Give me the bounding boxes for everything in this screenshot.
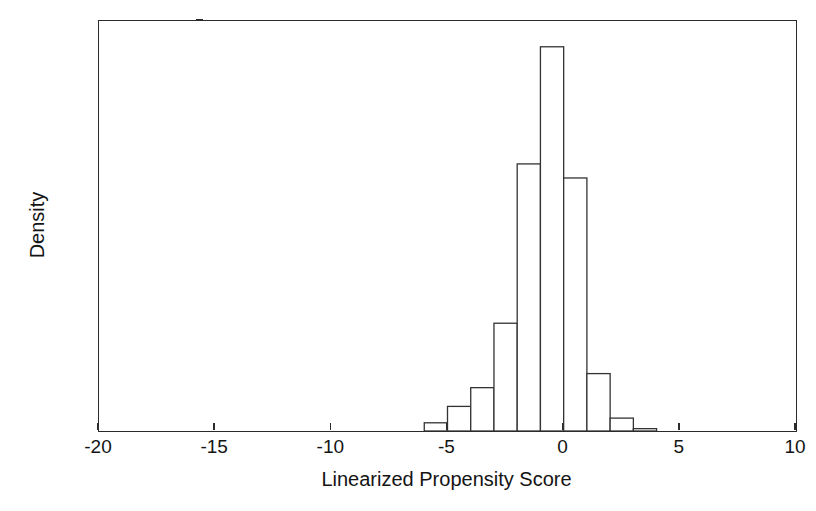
x-tick-label: 0 (557, 435, 568, 459)
x-tick-mark (213, 423, 214, 430)
histogram-bar (517, 164, 540, 431)
x-tick-label: 10 (784, 435, 805, 459)
x-tick-mark (678, 423, 679, 430)
x-tick-mark (97, 423, 98, 430)
x-tick-mark (794, 423, 795, 430)
y-axis-title: Density (26, 20, 52, 430)
x-tick-label: -20 (84, 435, 111, 459)
x-tick-mark (330, 423, 331, 430)
x-tick-label: 5 (674, 435, 685, 459)
histogram-bars (99, 21, 796, 431)
x-tick-label: -15 (200, 435, 227, 459)
x-axis-title: Linearized Propensity Score (98, 468, 795, 491)
histogram-bar (587, 374, 610, 431)
histogram-bar (540, 47, 563, 431)
histogram-bar (471, 388, 494, 431)
x-tick-mark (562, 423, 563, 430)
plot-area (98, 20, 797, 432)
histogram-bar (448, 406, 471, 431)
histogram-bar (494, 323, 517, 431)
histogram-figure: 00.050.10.150.20.250.30.35 -20-15-10-505… (0, 0, 816, 511)
x-tick-label: -10 (317, 435, 344, 459)
histogram-bar (564, 178, 587, 431)
x-tick-label: -5 (438, 435, 455, 459)
x-tick-mark (446, 423, 447, 430)
